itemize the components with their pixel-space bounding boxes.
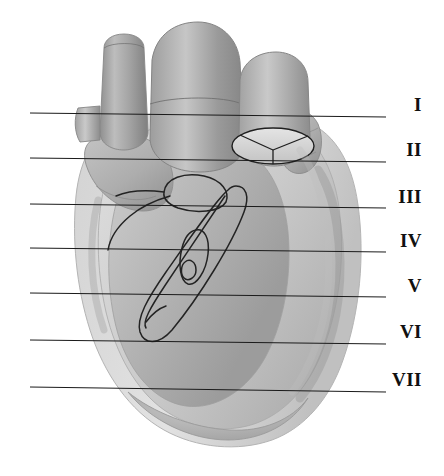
section-label-i: I xyxy=(362,95,422,114)
heart-section-figure: IIIIIIIVVVIVII xyxy=(0,0,444,476)
section-label-vii: VII xyxy=(362,370,422,389)
section-label-iv: IV xyxy=(362,231,422,250)
superior-vena-cava xyxy=(75,34,148,150)
pulmonary-trunk xyxy=(150,22,244,172)
section-label-vi: VI xyxy=(362,322,422,341)
section-label-v: V xyxy=(362,276,422,295)
section-label-ii: II xyxy=(362,140,422,159)
section-label-iii: III xyxy=(362,187,422,206)
